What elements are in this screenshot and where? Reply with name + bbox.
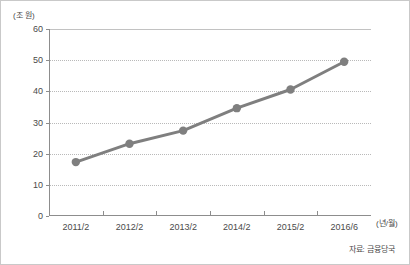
y-tick-label: 10 bbox=[33, 180, 43, 190]
source-note: 자료: 금융당국 bbox=[349, 243, 395, 254]
x-tick-label: 2016/6 bbox=[330, 222, 358, 232]
y-tick-label: 20 bbox=[33, 149, 43, 159]
y-tick-label: 60 bbox=[33, 24, 43, 34]
x-tick-label: 2012/2 bbox=[116, 222, 144, 232]
data-point-marker: 2014/2: 34.6 bbox=[233, 104, 241, 112]
y-tick-label: 0 bbox=[38, 211, 43, 221]
plot-area: 0102030405060 2011/22012/22013/22014/220… bbox=[49, 29, 371, 216]
data-point-marker: 2016/6: 49.5 bbox=[340, 58, 348, 66]
data-point-marker: 2011/2: 17.3 bbox=[72, 158, 80, 166]
y-axis-unit-label: (조 원) bbox=[13, 9, 35, 20]
series-polyline bbox=[76, 62, 344, 162]
data-point-marker: 2012/2: 23.2 bbox=[125, 139, 133, 147]
data-point-marker: 2013/2: 27.4 bbox=[179, 126, 187, 134]
x-axis-unit-label: (년/월) bbox=[376, 217, 398, 228]
x-tick-label: 2013/2 bbox=[169, 222, 197, 232]
y-tick-mark bbox=[46, 216, 49, 217]
x-tick-label: 2015/2 bbox=[277, 222, 305, 232]
data-point-marker: 2015/2: 40.6 bbox=[286, 85, 294, 93]
data-series-line: 2011/2: 17.32012/2: 23.22013/2: 27.42014… bbox=[49, 29, 371, 216]
y-tick-label: 40 bbox=[33, 86, 43, 96]
chart-figure: (조 원) 0102030405060 2011/22012/22013/220… bbox=[0, 0, 410, 265]
y-tick-label: 50 bbox=[33, 55, 43, 65]
y-tick-label: 30 bbox=[33, 118, 43, 128]
x-tick-label: 2011/2 bbox=[62, 222, 89, 232]
x-tick-label: 2014/2 bbox=[223, 222, 251, 232]
